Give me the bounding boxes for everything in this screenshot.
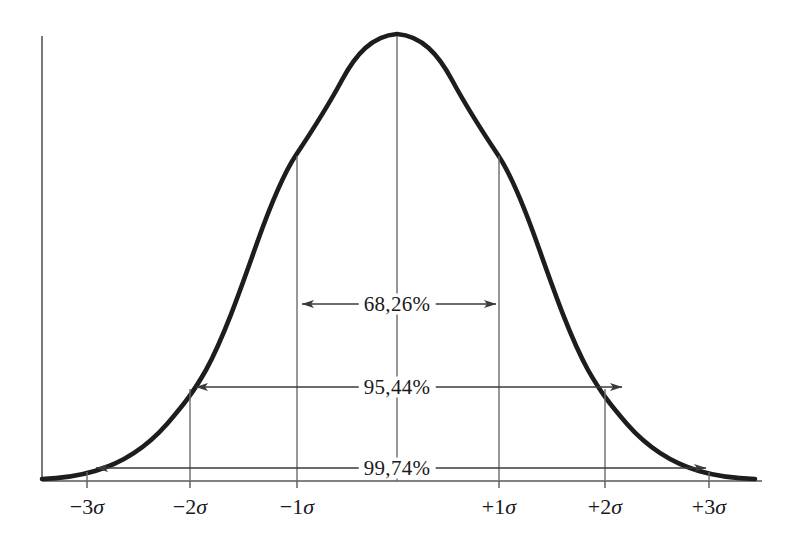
tick-sign-minus-3: −3 [70, 494, 93, 519]
axis-tick-label-minus-2-sigma: −2σ [173, 496, 207, 518]
interval-label-99: 99,74% [359, 458, 436, 479]
sigma-glyph: σ [303, 494, 314, 519]
sigma-glyph: σ [196, 494, 207, 519]
axis-tick-label-minus-3-sigma: −3σ [70, 496, 104, 518]
tick-sign-minus-2: −2 [173, 494, 196, 519]
sigma-glyph: σ [611, 494, 622, 519]
normal-distribution-curve [42, 34, 755, 479]
tick-sign-plus-3: +3 [692, 494, 715, 519]
interval-label-68: 68,26% [359, 294, 436, 315]
tick-sign-plus-1: +1 [482, 494, 505, 519]
tick-sign-plus-2: +2 [588, 494, 611, 519]
axis-tick-label-plus-2-sigma: +2σ [588, 496, 622, 518]
axis-tick-label-minus-1-sigma: −1σ [280, 496, 314, 518]
axis-tick-label-plus-1-sigma: +1σ [482, 496, 516, 518]
interval-label-95: 95,44% [359, 377, 436, 398]
bell-curve-figure: 68,26% 95,44% 99,74% −3σ −2σ −1σ +1σ +2σ… [0, 0, 797, 541]
sigma-glyph: σ [93, 494, 104, 519]
sigma-glyph: σ [715, 494, 726, 519]
tick-sign-minus-1: −1 [280, 494, 303, 519]
axis-tick-label-plus-3-sigma: +3σ [692, 496, 726, 518]
sigma-glyph: σ [505, 494, 516, 519]
